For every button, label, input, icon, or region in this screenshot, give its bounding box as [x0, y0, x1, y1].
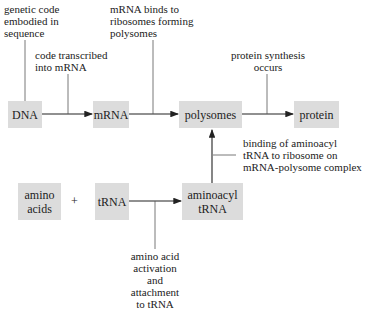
node-amino-acids: amino acids	[18, 183, 61, 220]
node-protein: protein	[294, 101, 339, 128]
annotation-genetic-code: genetic code embodied in sequence	[4, 3, 59, 39]
annotation-transcription: code transcribed into mRNA	[35, 49, 107, 73]
node-dna: DNA	[8, 101, 42, 128]
plus-sign: +	[71, 195, 78, 207]
node-polysomes: polysomes	[179, 101, 242, 128]
annotation-activation: amino acid activation and attachment to …	[125, 250, 185, 310]
annotation-mrna-binds: mRNA binds to ribosomes forming polysome…	[110, 3, 193, 39]
annotation-binding-aminoacyl: binding of aminoacyl tRNA to ribosome on…	[243, 137, 362, 173]
annotation-protein-synthesis: protein synthesis occurs	[229, 49, 307, 73]
node-mrna: mRNA	[93, 101, 129, 128]
node-aminoacyl-trna: aminoacyl tRNA	[182, 183, 243, 220]
node-trna: tRNA	[95, 183, 129, 220]
